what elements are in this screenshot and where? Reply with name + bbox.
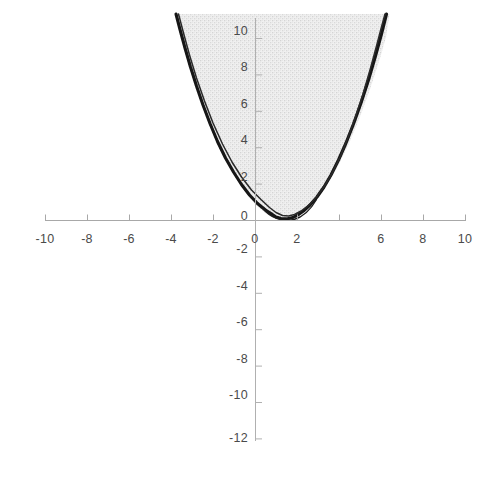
x-tick-label: 8: [419, 232, 426, 246]
parabola-plot: -10 -8 -6 -4 -2 0 2 6 8 10 10 8 6 4 2 0 …: [0, 0, 495, 477]
y-tick-label: -4: [236, 279, 248, 293]
x-tick-label: 10: [458, 232, 473, 246]
y-tick-label: -12: [229, 431, 248, 445]
x-axis-tick-labels: -10 -8 -6 -4 -2 0 2 6 8 10: [36, 232, 473, 246]
x-tick-label: -6: [123, 232, 135, 246]
x-tick-label: 6: [377, 232, 384, 246]
y-tick-label: 8: [241, 60, 248, 74]
x-tick-label: 2: [293, 232, 300, 246]
y-tick-label: -6: [236, 315, 248, 329]
y-tick-label: 10: [233, 24, 248, 38]
chart-figure: -10 -8 -6 -4 -2 0 2 6 8 10 10 8 6 4 2 0 …: [0, 0, 495, 477]
x-tick-label: -2: [207, 232, 219, 246]
x-tick-label: -8: [81, 232, 93, 246]
x-tick-label: -4: [165, 232, 177, 246]
y-tick-label: 6: [241, 97, 248, 111]
y-tick-label: -2: [236, 242, 248, 256]
y-tick-label: 0: [241, 209, 248, 223]
y-tick-label: 4: [241, 133, 248, 147]
y-tick-label: -10: [229, 388, 248, 402]
x-tick-label: 0: [251, 232, 258, 246]
y-tick-label: 2: [241, 170, 248, 184]
x-tick-label: -10: [36, 232, 55, 246]
y-tick-label: -8: [236, 352, 248, 366]
